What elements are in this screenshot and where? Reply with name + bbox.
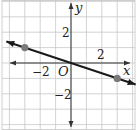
- axis-labels: x y O −2 2 2 −2: [32, 0, 131, 102]
- x-axis-left-arrow-icon: [10, 61, 16, 66]
- y-tick-label-2: 2: [62, 26, 70, 40]
- line-arrow-right-icon: [127, 79, 136, 85]
- x-tick-label-2: 2: [97, 48, 105, 62]
- y-tick-label-neg2: −2: [54, 88, 72, 102]
- data-point: [114, 75, 121, 82]
- y-axis-label: y: [74, 0, 83, 15]
- line-arrow-left-icon: [6, 41, 15, 47]
- y-axis-down-arrow-icon: [69, 121, 74, 127]
- x-tick-label-neg2: −2: [32, 65, 50, 79]
- data-point: [21, 44, 28, 51]
- x-axis-label: x: [123, 63, 131, 78]
- coordinate-graph: x y O −2 2 2 −2: [0, 0, 137, 130]
- origin-label: O: [58, 64, 69, 79]
- axes: [10, 3, 130, 127]
- y-axis-up-arrow-icon: [69, 3, 74, 9]
